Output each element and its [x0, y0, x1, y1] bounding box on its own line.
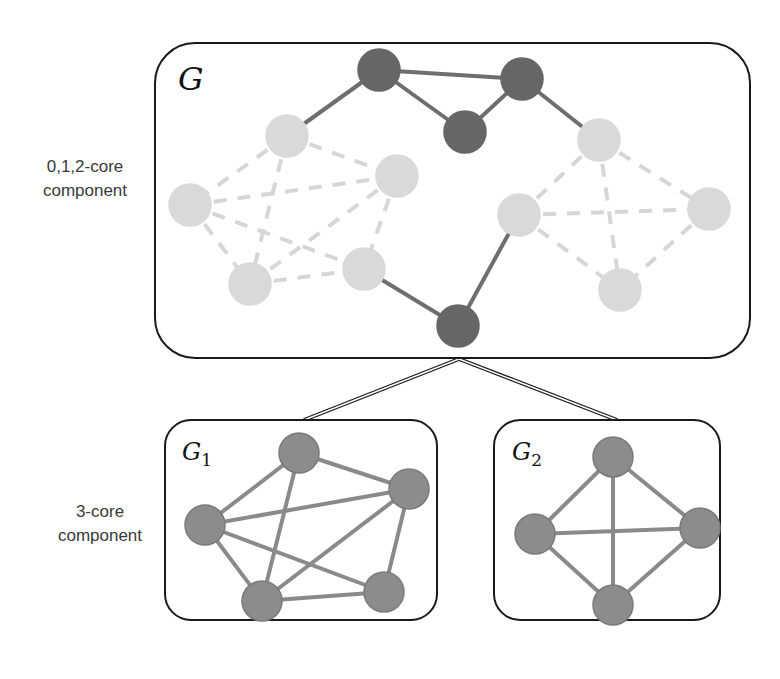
graph-g2-3core: G2 — [494, 420, 720, 625]
top-component-label: 0,1,2-core component — [20, 155, 150, 203]
node-light — [343, 248, 385, 290]
node-core — [680, 508, 720, 548]
node-core — [593, 585, 633, 625]
node-dark — [501, 58, 543, 100]
node-light — [599, 269, 641, 311]
connector-inner-line — [459, 359, 617, 420]
graph-title-subscript: 1 — [201, 450, 212, 470]
node-light — [266, 115, 308, 157]
node-core — [364, 572, 404, 612]
node-light — [688, 188, 730, 230]
graph-title-subscript: 2 — [531, 450, 542, 470]
decomposition-connector — [304, 359, 617, 420]
node-core — [389, 469, 429, 509]
node-light — [376, 155, 418, 197]
node-core — [593, 437, 633, 477]
graph-g1-3core: G1 — [165, 420, 437, 621]
node-light — [578, 119, 620, 161]
node-dark — [358, 49, 400, 91]
node-dark — [444, 111, 486, 153]
bottom-component-label: 3-core component — [35, 500, 165, 548]
node-core — [279, 433, 319, 473]
graph-g-original: G — [155, 43, 750, 358]
k-core-decomposition-diagram: G G1 G2 — [0, 0, 780, 679]
top-component-label-line1: 0,1,2-core — [20, 155, 150, 179]
bottom-component-label-line2: component — [35, 524, 165, 548]
node-light — [498, 194, 540, 236]
top-component-label-line2: component — [20, 179, 150, 203]
node-light — [229, 263, 271, 305]
bottom-component-label-line1: 3-core — [35, 500, 165, 524]
node-light — [169, 184, 211, 226]
node-core — [242, 581, 282, 621]
connector-inner-line — [304, 359, 459, 420]
node-core — [185, 505, 225, 545]
node-core — [515, 514, 555, 554]
graph-title-g: G — [178, 60, 204, 98]
node-dark — [437, 305, 479, 347]
